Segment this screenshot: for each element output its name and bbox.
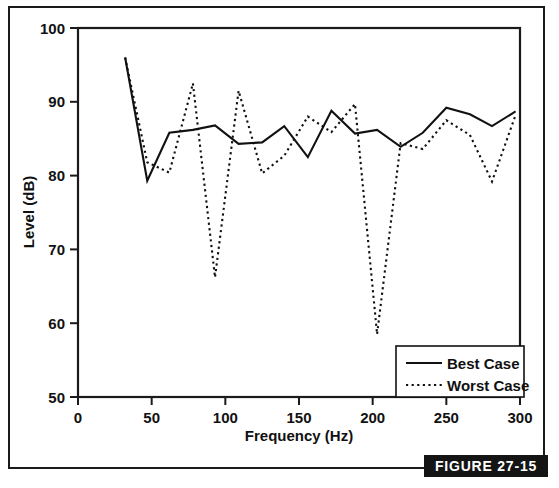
- line-chart: 5060708090100 050100150200250300 Frequen…: [0, 0, 559, 488]
- y-tick-label: 100: [40, 20, 65, 37]
- y-axis-title: Level (dB): [20, 176, 37, 249]
- legend-label-worst-case: Worst Case: [447, 377, 529, 394]
- series-line-worst-case: [125, 58, 515, 335]
- x-tick-label: 100: [213, 409, 238, 426]
- y-tick-label: 50: [48, 389, 65, 406]
- y-axis-tick-labels: 5060708090100: [40, 20, 65, 406]
- figure-root: 5060708090100 050100150200250300 Frequen…: [0, 0, 559, 488]
- y-axis-ticks: [70, 28, 78, 397]
- figure-number-badge: FIGURE 27-15: [424, 455, 548, 477]
- x-tick-label: 300: [507, 409, 532, 426]
- y-tick-label: 60: [48, 315, 65, 332]
- x-tick-label: 50: [143, 409, 160, 426]
- x-axis-tick-labels: 050100150200250300: [74, 409, 533, 426]
- y-tick-label: 90: [48, 93, 65, 110]
- x-tick-label: 200: [360, 409, 385, 426]
- legend-label-best-case: Best Case: [447, 355, 520, 372]
- y-tick-label: 80: [48, 167, 65, 184]
- x-tick-label: 250: [434, 409, 459, 426]
- x-axis-title: Frequency (Hz): [245, 427, 353, 444]
- chart-legend: Best Case Worst Case: [396, 346, 529, 397]
- x-tick-label: 0: [74, 409, 82, 426]
- y-tick-label: 70: [48, 241, 65, 258]
- plot-area-border: [78, 28, 520, 397]
- x-tick-label: 150: [286, 409, 311, 426]
- x-axis-ticks: [78, 397, 520, 405]
